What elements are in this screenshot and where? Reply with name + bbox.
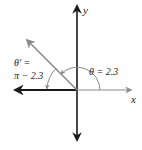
terminal-ray (27, 40, 77, 90)
reference-angle-label-line1: θ′ = (14, 57, 30, 68)
x-axis-label: x (130, 93, 136, 105)
reference-angle-arc (47, 69, 56, 89)
reference-angle-label-line2: π − 2.3 (14, 70, 43, 81)
theta-label: θ = 2.3 (89, 66, 118, 77)
y-axis-label: y (82, 4, 88, 16)
reference-angle-diagram: y x θ = 2.3 θ′ = π − 2.3 (0, 0, 142, 150)
